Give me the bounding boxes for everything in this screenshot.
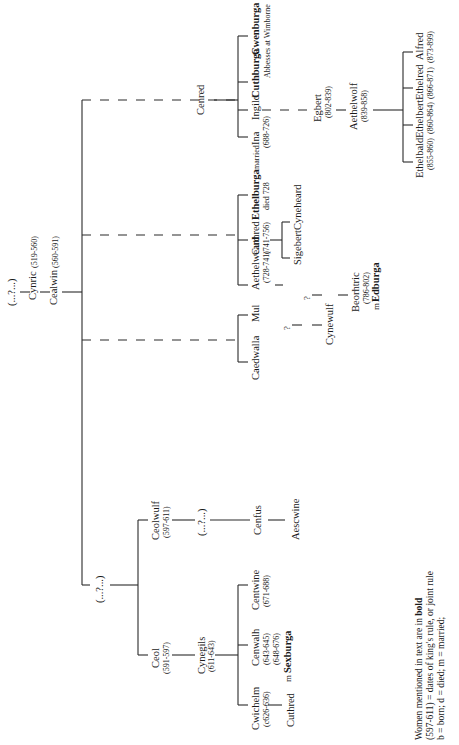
- node-married-note: married: [252, 145, 261, 170]
- node-cynric: Cynric: [27, 271, 38, 300]
- node-ethelburga-note: died 728: [262, 182, 271, 210]
- node-cuthred-dates: (741-756): [262, 222, 271, 254]
- legend: Women mentioned in text are in bold (597…: [414, 571, 447, 740]
- node-aethelwolf-dates: (839-858): [360, 90, 369, 122]
- node-cuthburga: Cuthburga: [250, 48, 261, 98]
- node-cynegils-dates: (611-643): [207, 640, 216, 672]
- node-unknown-ceolwulf: (...?...): [196, 509, 207, 536]
- node-abbesses-note: Abbesses at Wimborne: [263, 4, 272, 78]
- node-question-2: ?: [302, 296, 312, 300]
- legend-line-2: (597-611) = dates of king's rule, or joi…: [425, 571, 436, 740]
- node-egbert-dates: (802-839): [324, 86, 333, 118]
- node-caedwalla: Caedwalla: [250, 336, 261, 380]
- node-beorhtric: Beorhtric: [350, 272, 361, 312]
- node-ethelred-dates: (866-871): [426, 67, 435, 99]
- tree-connectors: [0, 0, 459, 745]
- node-cealwin-dates: (560-591): [51, 236, 60, 268]
- node-mul: Mul: [250, 304, 261, 322]
- node-aethelweard-dates: (728-741): [262, 251, 271, 283]
- node-cuthred: Cuthred: [250, 221, 261, 255]
- node-centwine-dates: (671-688): [262, 575, 271, 607]
- node-cenwalh-married: m: [283, 675, 293, 682]
- node-unknown-branch: (...?...): [94, 576, 105, 603]
- node-cenwalh-dates-1: (643-645): [262, 633, 271, 665]
- node-cenfus: Cenfus: [252, 505, 263, 535]
- node-ina: Ina: [250, 132, 261, 145]
- node-ceolwulf-dates: (597-611): [162, 506, 171, 538]
- node-egbert: Egbert: [312, 94, 323, 122]
- node-sexburga: Sexburga: [282, 630, 293, 673]
- node-ethelbert: Ethelbert: [414, 100, 425, 138]
- node-cenred: Cenred: [195, 85, 206, 115]
- node-cuthred-early: Cuthred: [285, 693, 296, 727]
- legend-line-3: b = born; d = died; m = married;: [436, 571, 447, 740]
- node-alfred: Alfred: [414, 33, 425, 60]
- node-beorhtric-married: m: [371, 303, 381, 310]
- node-cynric-dates: (519-560): [30, 236, 39, 268]
- node-aescwine: Aescwine: [290, 499, 301, 540]
- node-alfred-dates: (873-899): [426, 31, 435, 63]
- node-cealwin: Cealwin: [48, 270, 59, 305]
- node-ethelred: Ethelred: [414, 64, 425, 100]
- node-cynegils: Cynegils: [196, 637, 207, 674]
- node-centwine: Centwine: [250, 570, 261, 610]
- node-ethelbald-dates: (855-860): [426, 138, 435, 170]
- node-cwenburga: Cwenburga: [250, 2, 261, 55]
- node-ethelbert-dates: (860-864): [426, 102, 435, 134]
- node-edburga: Edburga: [370, 262, 381, 302]
- node-cwichelm-dates: (c626-636): [262, 691, 271, 727]
- node-cwichelm: Cwichelm: [250, 687, 261, 730]
- node-cenwalh-dates-2: (648-676): [272, 633, 281, 665]
- node-cyneheard: Cyneheard: [292, 185, 303, 230]
- node-ceol: Ceol: [150, 648, 161, 668]
- node-ina-dates: (688-726): [262, 116, 271, 148]
- node-ingild: Ingild: [250, 95, 261, 120]
- node-ceol-dates: (591-597): [162, 642, 171, 674]
- node-sigebert: Sigebert: [292, 230, 303, 265]
- node-aethelwolf: Aethelwolf: [348, 83, 359, 130]
- node-unknown-root: (...?...): [6, 279, 17, 306]
- node-cenwalh: Cenwalh: [250, 629, 261, 666]
- legend-line-1: Women mentioned in text are in bold: [414, 571, 425, 740]
- node-ceolwulf: Ceolwulf: [150, 501, 161, 540]
- node-question-1: ?: [282, 326, 292, 330]
- node-ethelbald: Ethelbald: [414, 138, 425, 178]
- node-ethelburga: Ethelburga: [250, 169, 261, 220]
- node-cynewulf: Cynewulf: [324, 304, 335, 345]
